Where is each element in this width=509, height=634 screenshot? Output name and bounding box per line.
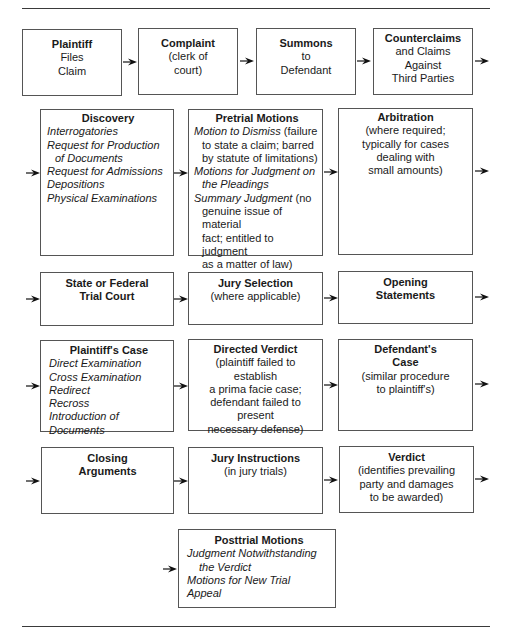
arrow-right-icon — [324, 476, 338, 484]
box-line: to plaintiff's) — [343, 383, 468, 396]
arrow-right-icon — [26, 382, 40, 390]
box-line: Defendant — [261, 64, 351, 77]
box-title: Jury Selection — [193, 277, 318, 290]
box-title: Verdict — [344, 451, 469, 464]
box-line: (where applicable) — [193, 290, 318, 303]
box-line: Claim — [27, 65, 117, 78]
box-line: small amounts) — [343, 164, 468, 177]
italic-term: Summary Judgment — [194, 192, 292, 204]
box-line: party and damages — [344, 478, 469, 491]
box-line: by statute of limitations) — [194, 152, 320, 165]
arrow-right-icon — [240, 57, 254, 65]
box-title-line2: Trial Court — [45, 290, 169, 303]
box-line: Third Parties — [378, 72, 468, 85]
box-line: Motion to Dismiss (failure — [194, 125, 320, 138]
box-complaint: Complaint (clerk of court) — [138, 28, 238, 95]
arrow-right-icon — [26, 295, 40, 303]
box-line-rest: (no — [292, 192, 311, 204]
box-line: Summary Judgment (no — [194, 192, 320, 205]
arrow-right-icon — [475, 475, 489, 483]
box-title: Opening — [343, 276, 468, 289]
box-line: (where required; — [343, 124, 468, 137]
box-line: Redirect — [49, 384, 169, 397]
arrow-right-icon — [174, 477, 188, 485]
box-line: to be awarded) — [344, 491, 469, 504]
box-line: (in jury trials) — [193, 465, 318, 478]
box-line: Request for Production — [47, 139, 169, 152]
box-line: as a matter of law) — [194, 258, 320, 271]
box-line: Interrogatories — [47, 125, 169, 138]
arrow-right-icon — [163, 565, 177, 573]
box-line: (clerk of — [143, 50, 233, 63]
box-title: Arbitration — [343, 111, 468, 124]
box-summons: Summons to Defendant — [256, 28, 356, 95]
arrow-right-icon — [123, 58, 137, 66]
box-opening-statements: Opening Statements — [338, 271, 473, 324]
arrow-right-icon — [26, 169, 40, 177]
box-counterclaims: Counterclaims and Claims Against Third P… — [373, 28, 473, 95]
box-line: Against — [378, 59, 468, 72]
arrow-right-icon — [324, 168, 338, 176]
box-title: Plaintiff — [27, 38, 117, 51]
box-closing-arguments: Closing Arguments — [41, 447, 174, 514]
box-title: Pretrial Motions — [194, 112, 320, 125]
box-line: defendant failed to present — [193, 396, 318, 423]
box-line: the Pleadings — [194, 178, 320, 191]
box-plaintiff-files-claim: Plaintiff Files Claim — [22, 29, 122, 96]
box-line: necessary defense) — [193, 423, 318, 436]
box-title: State or Federal — [45, 277, 169, 290]
box-jury-instructions: Jury Instructions (in jury trials) — [188, 447, 323, 514]
arrow-right-icon — [26, 477, 40, 485]
box-title: Summons — [261, 37, 351, 50]
box-pretrial-motions: Pretrial Motions Motion to Dismiss (fail… — [188, 109, 323, 256]
box-title: Plaintiff's Case — [49, 344, 169, 357]
box-title: Directed Verdict — [193, 343, 318, 356]
box-line: Appeal — [187, 587, 331, 600]
box-arbitration: Arbitration (where required; typically f… — [338, 108, 473, 255]
box-line: Judgment Notwithstanding — [187, 547, 331, 560]
box-line: (identifies prevailing — [344, 464, 469, 477]
bottom-rule — [22, 626, 490, 627]
box-posttrial-motions: Posttrial Motions Judgment Notwithstandi… — [178, 529, 336, 608]
box-title-line2: Case — [343, 356, 468, 369]
box-verdict: Verdict (identifies prevailing party and… — [339, 446, 474, 513]
top-rule — [22, 8, 490, 9]
arrow-right-icon — [475, 380, 489, 388]
box-line: of Documents — [47, 152, 169, 165]
box-title-line2: Arguments — [46, 465, 169, 478]
box-title: Discovery — [47, 112, 169, 125]
box-line: Motions for New Trial — [187, 574, 331, 587]
box-title: Closing — [46, 452, 169, 465]
arrow-right-icon — [174, 169, 188, 177]
box-line: Cross Examination — [49, 371, 169, 384]
box-line: a prima facie case; — [193, 383, 318, 396]
box-title-line2: Statements — [343, 289, 468, 302]
box-line: the Verdict — [187, 561, 331, 574]
box-line: genuine issue of material — [194, 205, 320, 232]
arrow-right-icon — [324, 294, 338, 302]
arrow-right-icon — [475, 293, 489, 301]
box-line: and Claims — [378, 45, 468, 58]
box-title: Counterclaims — [378, 32, 468, 45]
box-line: typically for cases — [343, 138, 468, 151]
box-jury-selection: Jury Selection (where applicable) — [188, 272, 323, 325]
box-plaintiffs-case: Plaintiff's Case Direct Examination Cros… — [40, 340, 174, 432]
arrow-right-icon — [475, 57, 489, 65]
box-defendants-case: Defendant's Case (similar procedure to p… — [338, 339, 473, 431]
italic-term: Motion to Dismiss — [194, 125, 281, 137]
box-line: Request for Admissions — [47, 165, 169, 178]
box-line: Direct Examination — [49, 357, 169, 370]
box-line: Introduction of Documents — [49, 410, 169, 437]
box-discovery: Discovery Interrogatories Request for Pr… — [40, 109, 174, 256]
arrow-right-icon — [475, 167, 489, 175]
box-line: (plaintiff failed to establish — [193, 356, 318, 383]
box-line: (similar procedure — [343, 370, 468, 383]
box-line: court) — [143, 64, 233, 77]
box-title: Posttrial Motions — [187, 534, 331, 547]
box-line: fact; entitled to judgment — [194, 232, 320, 259]
box-title: Jury Instructions — [193, 452, 318, 465]
box-trial-court: State or Federal Trial Court — [40, 272, 174, 326]
box-line: Physical Examinations — [47, 192, 169, 205]
arrow-right-icon — [174, 295, 188, 303]
box-title: Defendant's — [343, 343, 468, 356]
